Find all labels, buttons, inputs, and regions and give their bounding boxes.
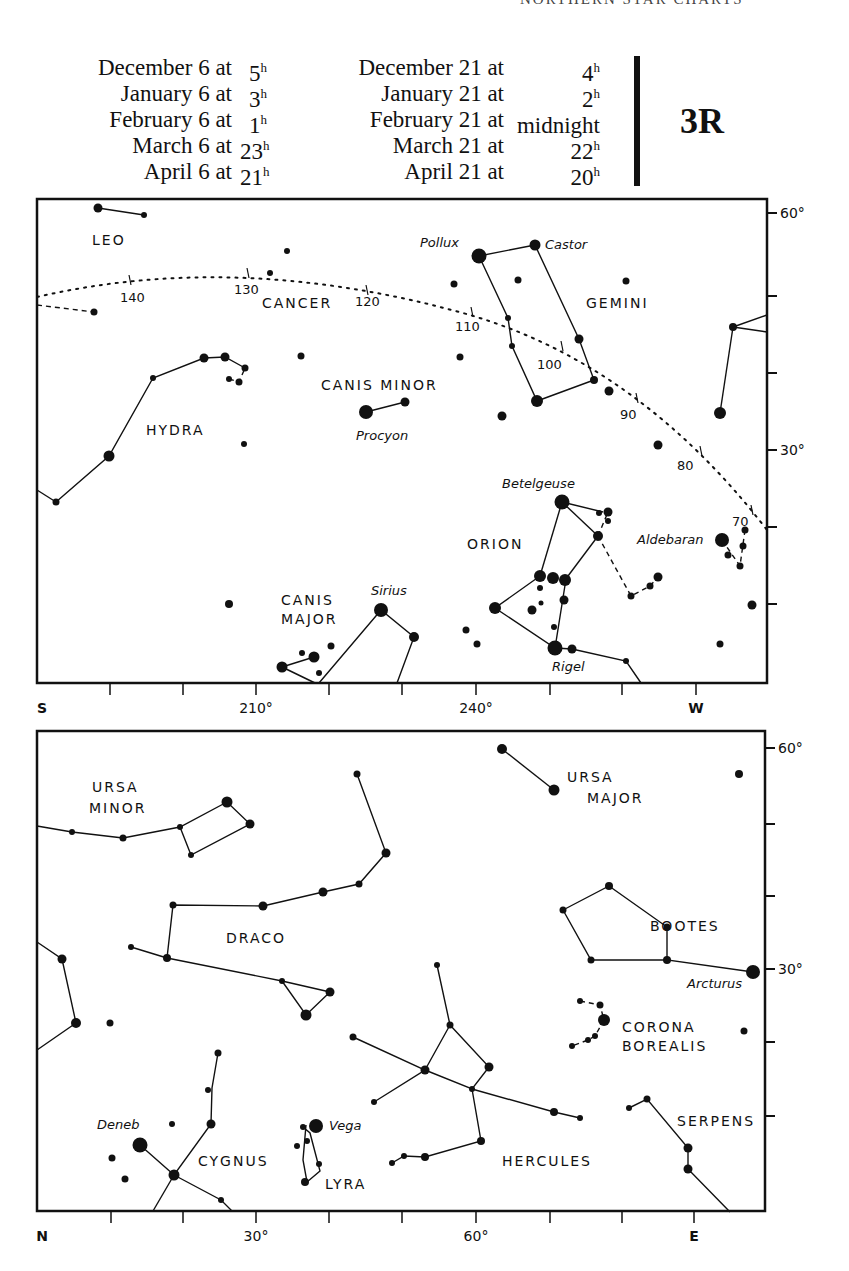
constellation-label: MAJOR	[587, 790, 644, 806]
star-icon	[374, 603, 388, 617]
star-icon	[463, 627, 470, 634]
constellation-line	[353, 1037, 425, 1102]
star-icon	[530, 240, 541, 251]
star-icon	[328, 643, 335, 650]
star-name-label: Pollux	[420, 235, 459, 250]
constellation-line	[174, 1175, 232, 1211]
star-icon	[226, 376, 232, 382]
compass-label: E	[689, 1228, 699, 1244]
star-icon	[241, 441, 247, 447]
constellation-line	[565, 536, 598, 580]
star-icon	[715, 533, 729, 547]
star-icon	[300, 1124, 306, 1130]
star-icon	[350, 1034, 357, 1041]
star-icon	[537, 585, 543, 591]
ecliptic-label: 140	[120, 290, 145, 305]
star-icon	[593, 531, 603, 541]
star-icon	[596, 510, 602, 516]
star-icon	[590, 376, 598, 384]
star-icon	[654, 573, 663, 582]
star-icon	[663, 956, 671, 964]
star-icon	[277, 662, 288, 673]
constellation-label: URSA	[567, 769, 614, 785]
star-icon	[577, 1115, 583, 1121]
star-name-label: Deneb	[97, 1117, 140, 1132]
ecliptic-label: 80	[677, 458, 694, 473]
star-icon	[107, 1020, 114, 1027]
star-name-label: Castor	[545, 237, 589, 252]
star-icon	[163, 954, 171, 962]
star-icon	[259, 902, 268, 911]
star-name-label: Aldebaran	[636, 532, 704, 547]
schedule-row: January 21 at 2h	[300, 81, 600, 107]
star-icon	[725, 552, 732, 559]
star-icon	[644, 1096, 651, 1103]
constellation-label: DRACO	[226, 930, 286, 946]
star-icon	[91, 309, 98, 316]
constellation-label: LYRA	[325, 1176, 366, 1192]
star-icon	[141, 212, 147, 218]
star-icon	[575, 335, 584, 344]
star-icon	[717, 641, 724, 648]
star-icon	[647, 583, 654, 590]
constellation-line	[282, 667, 315, 683]
star-icon	[301, 1010, 312, 1021]
star-icon	[218, 1197, 224, 1203]
star-icon	[299, 650, 305, 656]
constellation-line	[37, 305, 94, 312]
star-icon	[534, 570, 546, 582]
ecliptic-tick	[129, 275, 131, 285]
constellation-label: ORION	[467, 536, 523, 552]
constellation-line	[303, 1125, 320, 1182]
declination-label: 60°	[780, 205, 805, 221]
schedule-row: December 6 at 5h	[0, 55, 300, 81]
star-icon	[279, 978, 285, 984]
ecliptic-label: 130	[234, 282, 259, 297]
ecliptic-tick	[247, 268, 249, 278]
star-icon	[748, 601, 757, 610]
schedule-date: April 6 at	[144, 159, 232, 185]
star-icon	[551, 624, 557, 630]
star-icon	[316, 1161, 322, 1167]
star-icon	[605, 518, 611, 524]
star-icon	[294, 1143, 300, 1149]
star-icon	[109, 1155, 116, 1162]
star-icon	[120, 835, 127, 842]
star-icon	[555, 495, 570, 510]
constellation-label: MINOR	[89, 800, 146, 816]
star-icon	[509, 343, 515, 349]
star-icon	[382, 849, 391, 858]
constellation-line	[540, 502, 562, 576]
schedule-row: January 6 at 3h	[0, 81, 300, 107]
constellation-label: LEO	[92, 232, 126, 248]
star-icon	[207, 1120, 216, 1129]
star-icon	[605, 882, 613, 890]
star-icon	[577, 998, 583, 1004]
divider-bar	[634, 56, 640, 186]
star-icon	[568, 645, 577, 654]
star-icon	[741, 1028, 748, 1035]
star-icon	[742, 527, 749, 534]
azimuth-label: 30°	[244, 1228, 269, 1244]
star-icon	[225, 600, 233, 608]
star-icon	[298, 353, 305, 360]
star-icon	[560, 907, 567, 914]
star-icon	[401, 1153, 407, 1159]
star-icon	[53, 499, 60, 506]
star-icon	[309, 1119, 323, 1133]
star-icon	[569, 1043, 575, 1049]
constellation-label: CYGNUS	[198, 1153, 269, 1169]
star-name-label: Rigel	[552, 659, 585, 674]
compass-label: N	[36, 1228, 48, 1244]
azimuth-label: 60°	[464, 1228, 489, 1244]
constellation-line	[153, 1175, 174, 1211]
star-icon	[547, 572, 559, 584]
constellation-label: CORONA	[622, 1019, 696, 1035]
star-icon	[560, 596, 569, 605]
star-icon	[200, 354, 209, 363]
star-name-label: Sirius	[371, 583, 407, 598]
constellation-label: CANIS	[281, 592, 334, 608]
north-star-chart: URSAMINORURSAMAJORDRACOBOOTESCORONABOREA…	[0, 722, 849, 1271]
schedule-row: March 6 at 23h	[0, 133, 300, 159]
schedule-row: February 6 at 1h	[0, 107, 300, 133]
